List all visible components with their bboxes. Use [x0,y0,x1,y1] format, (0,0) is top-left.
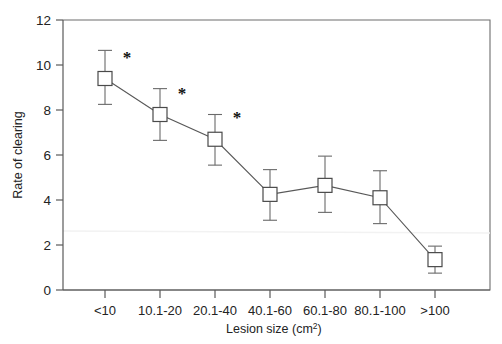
chart-container: 024681012 <1010.1-2020.1-4040.1-6060.1-8… [0,0,502,344]
y-tick-label: 2 [43,238,51,253]
x-tick-label: <10 [94,303,116,318]
y-tick-label: 4 [43,193,51,208]
y-axis-title: Rate of clearing [11,111,25,199]
y-tick-label: 8 [43,103,51,118]
data-point-marker [318,178,332,192]
y-tick-label: 0 [43,283,51,298]
x-tick-label: 40.1-60 [248,303,292,318]
x-tick-label: 80.1-100 [354,303,405,318]
x-tick-label: >100 [420,303,449,318]
significance-asterisk: * [123,48,132,67]
data-point-marker [373,191,387,205]
y-tick-label: 10 [36,58,51,73]
x-tick-label: 60.1-80 [303,303,347,318]
data-point-marker [153,108,167,122]
significance-asterisk: * [233,108,242,127]
chart-background [0,0,502,344]
x-axis-title-base: Lesion size (cm [226,322,313,336]
data-point-marker [98,72,112,86]
y-tick-label: 6 [43,148,51,163]
x-tick-label: 10.1-20 [138,303,182,318]
x-tick-label: 20.1-40 [193,303,237,318]
significance-asterisk: * [178,84,187,103]
y-tick-label: 12 [36,13,51,28]
data-point-marker [208,132,222,146]
x-axis-title-tail: ) [318,322,322,336]
x-axis-title: Lesion size (cm2) [226,321,322,336]
rate-of-clearing-line-chart: 024681012 <1010.1-2020.1-4040.1-6060.1-8… [0,0,502,344]
data-point-marker [263,187,277,201]
data-point-marker [428,253,442,267]
